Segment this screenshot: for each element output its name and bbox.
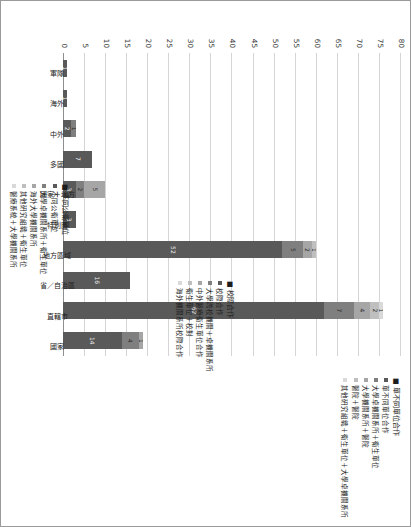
- y-axis-tick-label: 80: [397, 26, 406, 48]
- y-axis-tick-label: 5: [81, 26, 90, 48]
- y-axis-tick-label: 75: [375, 26, 384, 48]
- legend-item[interactable]: 大學機關系所＋醫院: [361, 378, 369, 518]
- legend-item-label: 單不同單位合作: [381, 385, 389, 434]
- legend-group: ■ 不同公衛單位不同公衛單位大學卓機關系所＋衛生單位海外大學機關系所其他研究組織…: [9, 184, 402, 275]
- legend-swatch-icon: [22, 184, 26, 188]
- legend-swatch-icon: [53, 184, 57, 188]
- legend-item-label: 其他研究組織＋衛生單位＋大學卓機關系所: [340, 385, 348, 518]
- legend-group-title: ■ 校際合作: [226, 281, 236, 372]
- legend-item[interactable]: 中外醫療衛生單位合作: [195, 281, 203, 372]
- legend-item[interactable]: 大學卓機關系所＋衛生單位: [371, 378, 379, 518]
- legend-swatch-icon: [43, 184, 47, 188]
- y-axis-tick-label: 35: [207, 26, 216, 48]
- bar-segment: 1: [71, 120, 75, 137]
- legend-swatch-icon: [344, 378, 348, 382]
- chart-legend: ■ 單不同單位合作單不同單位合作大學卓機關系所＋衛生單位大學機關系所＋醫院醫院＋…: [9, 360, 402, 518]
- legend-item-label: 大學機關系所＋醫院: [361, 385, 369, 448]
- legend-group: ■ 校際合作校際合作大學跨校機關＋卓機關系所中外醫療衛生單位合作衛生單位＋校對海…: [9, 281, 402, 372]
- legend-item-label: 校際合作: [215, 288, 223, 316]
- legend-swatch-icon: [188, 281, 192, 285]
- legend-item[interactable]: 單不同單位合作: [381, 378, 389, 518]
- y-axis-tick-label: 10: [102, 26, 111, 48]
- y-axis-tick-label: 20: [144, 26, 153, 48]
- legend-item[interactable]: 醫院＋醫院: [351, 378, 359, 518]
- legend-group: ■ 單不同單位合作單不同單位合作大學卓機關系所＋衛生單位大學機關系所＋醫院醫院＋…: [9, 378, 402, 518]
- legend-swatch-icon: [384, 378, 388, 382]
- legend-item-label: 海外機關系所校際合作: [175, 288, 183, 358]
- legend-item-label: 其他研究組織＋衛生單位: [19, 191, 27, 268]
- legend-item-label: 大學卓機關系所＋衛生單位: [39, 191, 47, 275]
- y-axis-tick-label: 45: [249, 26, 258, 48]
- bar-segment: 7: [63, 151, 92, 168]
- x-axis-category-label: 海外: [50, 98, 64, 108]
- stacked-bar: 21: [63, 120, 76, 137]
- legend-item[interactable]: 大學卓機關系所＋衛生單位: [39, 184, 47, 275]
- legend-item[interactable]: 海外大學機關系所: [29, 184, 37, 275]
- bar-segment: 2: [63, 120, 71, 137]
- legend-swatch-icon: [12, 184, 16, 188]
- y-axis-tick-label: 70: [354, 26, 363, 48]
- legend-swatch-icon: [178, 281, 182, 285]
- scanned-page: 05101520253035404550556065707580 1軍隊1海外2…: [0, 0, 411, 527]
- legend-swatch-icon: [208, 281, 212, 285]
- legend-item[interactable]: 醫療系統＋大學機關系所: [9, 184, 17, 275]
- legend-swatch-icon: [32, 184, 36, 188]
- legend-swatch-icon: [374, 378, 378, 382]
- chart-figure: 05101520253035404550556065707580 1軍隊1海外2…: [0, 0, 411, 527]
- bar-column: 7多國: [63, 145, 400, 172]
- legend-item-label: 醫療系統＋大學機關系所: [9, 191, 17, 268]
- legend-item[interactable]: 其他研究組織＋衛生單位＋大學卓機關系所: [340, 378, 348, 518]
- bar-column: 1海外: [63, 85, 400, 112]
- legend-swatch-icon: [354, 378, 358, 382]
- legend-item-label: 大學跨校機關＋卓機關系所: [205, 288, 213, 372]
- legend-item-label: 醫院＋醫院: [351, 385, 359, 420]
- legend-item[interactable]: 不同公衛單位: [50, 184, 58, 275]
- y-axis-tick-label: 50: [270, 26, 279, 48]
- x-axis-category-label: 多國: [50, 159, 64, 169]
- y-axis-tick-label: 30: [186, 26, 195, 48]
- legend-swatch-icon: [364, 378, 368, 382]
- legend-swatch-icon: [218, 281, 222, 285]
- y-axis-tick-label: 60: [312, 26, 321, 48]
- legend-item-label: 中外醫療衛生單位合作: [195, 288, 203, 358]
- legend-swatch-icon: [198, 281, 202, 285]
- legend-item-label: 衛生單位＋校對: [185, 288, 193, 337]
- x-axis-category-label: 中外: [50, 129, 64, 139]
- legend-item[interactable]: 衛生單位＋校對: [185, 281, 193, 372]
- y-axis-tick-label: 25: [165, 26, 174, 48]
- legend-item-label: 不同公衛單位: [50, 191, 58, 233]
- legend-item[interactable]: 其他研究組織＋衛生單位: [19, 184, 27, 275]
- bar-column: 1軍隊: [63, 55, 400, 82]
- legend-item[interactable]: 海外機關系所校際合作: [175, 281, 183, 372]
- y-axis-tick-label: 15: [123, 26, 132, 48]
- y-axis-tick-label: 65: [333, 26, 342, 48]
- legend-item-label: 海外大學機關系所: [29, 191, 37, 247]
- x-axis-category-label: 軍隊: [50, 68, 64, 78]
- y-axis-tick-label: 40: [228, 26, 237, 48]
- y-axis-tick-label: 0: [60, 26, 69, 48]
- bar-column: 21中外: [63, 115, 400, 142]
- legend-item-label: 大學卓機關系所＋衛生單位: [371, 385, 379, 469]
- legend-item[interactable]: 校際合作: [215, 281, 223, 372]
- legend-group-title: ■ 不同公衛單位: [61, 184, 71, 275]
- legend-item[interactable]: 大學跨校機關＋卓機關系所: [205, 281, 213, 372]
- y-axis-tick-label: 55: [291, 26, 300, 48]
- stacked-bar: 7: [63, 151, 92, 168]
- legend-group-title: ■ 單不同單位合作: [392, 378, 402, 518]
